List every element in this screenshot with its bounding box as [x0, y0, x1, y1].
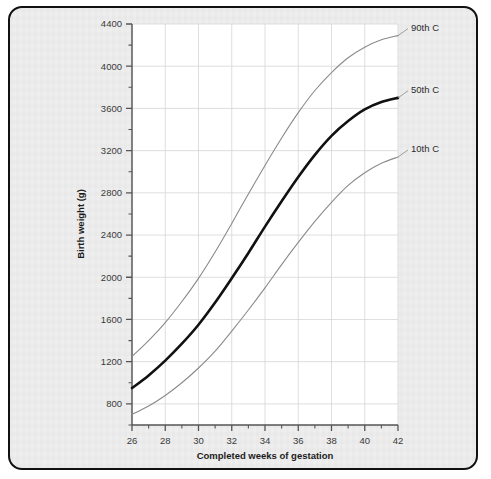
x-tick-label: 38	[326, 435, 337, 446]
y-tick-label: 2000	[101, 272, 122, 283]
y-tick-label: 2400	[101, 229, 122, 240]
y-tick-label: 4400	[101, 18, 122, 29]
x-tick-label: 40	[359, 435, 370, 446]
chart-area: 800120016002000240028003200360040004400 …	[10, 8, 476, 468]
y-axis-tick-labels: 800120016002000240028003200360040004400	[101, 18, 122, 409]
curve-label-leader-1	[398, 91, 408, 98]
y-tick-label: 800	[106, 398, 122, 409]
y-tick-label: 3600	[101, 103, 122, 114]
y-tick-label: 1200	[101, 356, 122, 367]
x-tick-label: 30	[193, 435, 204, 446]
curve-label-leader-2	[398, 150, 408, 157]
figure-frame: 800120016002000240028003200360040004400 …	[8, 6, 478, 470]
x-tick-label: 28	[160, 435, 171, 446]
curve-label-90th-c: 90th C	[411, 22, 439, 33]
x-axis-title: Completed weeks of gestation	[197, 450, 334, 461]
x-tick-label: 42	[393, 435, 404, 446]
curve-label-leader-0	[398, 29, 408, 36]
x-tick-label: 32	[226, 435, 237, 446]
y-tick-label: 3200	[101, 145, 122, 156]
birth-weight-centile-chart: 800120016002000240028003200360040004400 …	[10, 8, 476, 468]
curve-end-labels: 90th C50th C10th C	[398, 22, 439, 157]
x-tick-label: 34	[260, 435, 271, 446]
y-tick-label: 4000	[101, 61, 122, 72]
curve-label-50th-c: 50th C	[411, 84, 439, 95]
curve-label-10th-c: 10th C	[411, 143, 439, 154]
x-tick-label: 36	[293, 435, 304, 446]
x-tick-label: 26	[127, 435, 138, 446]
y-axis-title: Birth weight (g)	[75, 189, 86, 259]
y-tick-label: 2800	[101, 187, 122, 198]
y-tick-label: 1600	[101, 314, 122, 325]
x-axis-tick-labels: 262830323436384042	[127, 435, 404, 446]
